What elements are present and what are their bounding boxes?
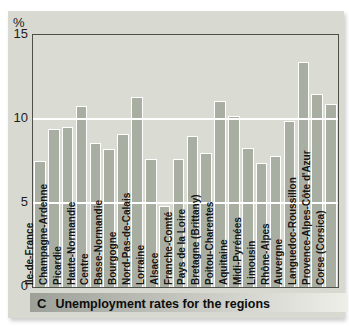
caption-title: Unemployment rates for the regions xyxy=(55,297,270,311)
bar-label: Provence-Alpes-Côte d'Azur xyxy=(301,150,312,285)
y-axis-tick-10: 10 xyxy=(0,110,28,126)
bar-label: Limousin xyxy=(246,241,257,285)
bar-label: Languedoc-Roussillon xyxy=(287,177,298,285)
bar-label: Ile-de-France xyxy=(24,223,35,285)
bar-label: Franche-Comté xyxy=(163,212,174,285)
bar-label: Centre xyxy=(79,253,90,285)
bar-label: Bourgogne xyxy=(107,232,118,285)
bar-label: Picardie xyxy=(52,246,63,285)
bar-label: Auvergne xyxy=(273,239,284,285)
bar-label: Rhône-Alpes xyxy=(260,223,271,285)
bar-label: Lorraine xyxy=(135,245,146,285)
bar-label: Poitou-Charentes xyxy=(204,202,215,285)
bar-label: Nord-Pas-de-Calais xyxy=(121,193,132,285)
bar-label: Alsace xyxy=(149,253,160,285)
gridline xyxy=(33,118,338,120)
bar-label: Champagne-Ardenne xyxy=(38,184,49,285)
y-axis-tick-5: 5 xyxy=(0,194,28,210)
figure: % 051015 Ile-de-FranceChampagne-ArdenneP… xyxy=(0,0,349,326)
bar xyxy=(325,104,337,287)
plot-area: Ile-de-FranceChampagne-ArdennePicardieHa… xyxy=(32,34,339,288)
bar-label: Pays de la Loire xyxy=(176,209,187,285)
chart-caption: CUnemployment rates for the regions xyxy=(30,293,348,312)
bar-label: Midi-Pyrénées xyxy=(232,217,243,285)
bar-label: Basse-Normandie xyxy=(93,200,104,285)
bar-label: Corse (Corsica) xyxy=(315,211,326,285)
bar-label: Haute-Normandie xyxy=(66,202,77,285)
bar-label: Bretagne (Brittany) xyxy=(190,194,201,285)
bar-label: Aquitaine xyxy=(218,239,229,285)
y-axis-tick-15: 15 xyxy=(0,26,28,42)
caption-index-letter: C xyxy=(30,296,46,311)
